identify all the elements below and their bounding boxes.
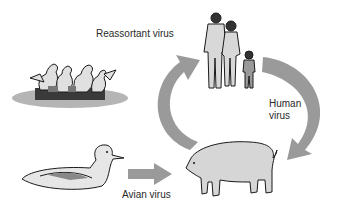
human-virus-label-line2: virus (269, 110, 290, 121)
reassortant-virus-label: Reassortant virus (96, 28, 174, 39)
straight-arrow-avian-to-pig-icon (128, 163, 172, 185)
duck-flock-icon (12, 64, 128, 108)
human-virus-label-line1: Human (269, 98, 301, 109)
human-family-icon (204, 13, 255, 88)
pig-icon (186, 142, 277, 196)
duck-icon (22, 145, 124, 189)
influenza-transmission-diagram: Reassortant virus Human virus Avian viru… (0, 0, 345, 210)
arc-arrow-pig-to-reassortant-icon (158, 55, 200, 150)
avian-virus-label: Avian virus (122, 189, 171, 200)
